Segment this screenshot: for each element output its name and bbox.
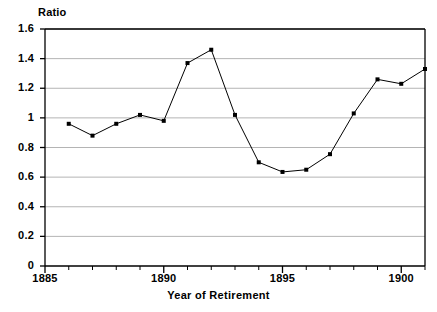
x-tick-label: 1885 [23,272,67,284]
y-tick-label: 1.2 [0,81,34,93]
data-point-marker [352,111,356,115]
data-point-marker [114,122,118,126]
x-tick-label: 1895 [261,272,305,284]
data-point-marker [304,168,308,172]
y-tick-label: 0.4 [0,200,34,212]
x-tick-label: 1890 [142,272,186,284]
chart-container: Ratio Year of Retirement 00.20.40.60.811… [0,0,437,312]
data-point-marker [162,119,166,123]
y-tick-label: 0 [0,259,34,271]
data-point-marker [376,77,380,81]
data-line-group [69,50,425,172]
data-line [69,50,425,172]
data-point-marker [186,61,190,65]
y-tick-label: 0.6 [0,170,34,182]
line-chart-plot [0,0,437,312]
data-point-marker [138,113,142,117]
data-point-marker [328,152,332,156]
y-tick-label: 0.2 [0,229,34,241]
data-point-marker [399,82,403,86]
data-point-marker [91,134,95,138]
data-point-marker [281,170,285,174]
gridlines-group [45,29,425,236]
data-point-marker [257,160,261,164]
data-points-group [67,48,427,174]
y-tick-label: 0.8 [0,141,34,153]
data-point-marker [67,122,71,126]
y-tick-label: 1.4 [0,52,34,64]
data-point-marker [423,67,427,71]
data-point-marker [233,113,237,117]
data-point-marker [209,48,213,52]
x-tick-label: 1900 [379,272,423,284]
y-tick-label: 1.6 [0,22,34,34]
y-tick-label: 1 [0,111,34,123]
